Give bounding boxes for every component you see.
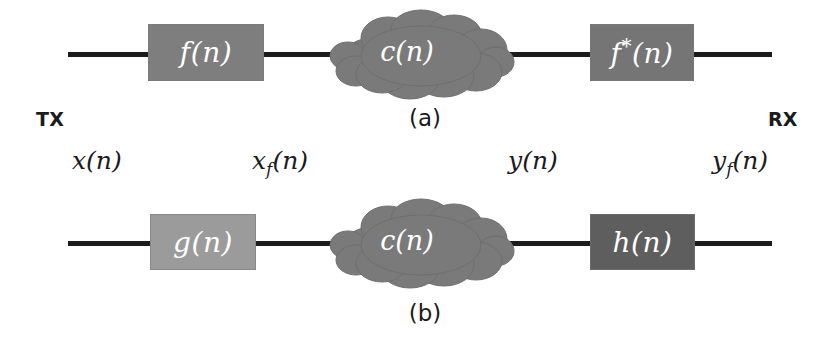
wire-cloud-b-to-h [508,241,592,246]
rx-label: RX [768,108,798,130]
block-g[interactable]: g(n) [150,214,256,270]
block-f-label: f(n) [180,36,232,69]
block-f-conjugate[interactable]: f*(n) [590,24,694,81]
signal-xf-of-n: xf(n) [252,146,308,179]
block-h[interactable]: h(n) [590,214,695,270]
channel-cloud-a-label: c(n) [380,36,434,67]
tx-label: TX [36,108,64,130]
block-h-label: h(n) [613,226,673,259]
channel-cloud-a[interactable]: c(n) [326,8,516,100]
wire-tx-to-g [68,241,152,246]
wire-fconj-to-rx [692,52,772,57]
block-f-conjugate-label: f*(n) [611,34,674,70]
wire-cloud-a-to-fconj [508,52,592,57]
wire-h-to-rx [694,241,772,246]
signal-x-of-n: x(n) [72,146,122,175]
block-f[interactable]: f(n) [148,24,264,81]
signal-y-of-n: y(n) [508,146,558,175]
block-g-label: g(n) [173,226,233,259]
panel-caption-b: (b) [385,300,465,326]
channel-cloud-b[interactable]: c(n) [326,197,516,289]
block-diagram-figure: f(n) c(n) [0,0,825,346]
panel-caption-a: (a) [385,105,465,131]
channel-cloud-b-label: c(n) [380,225,434,256]
signal-yf-of-n: yf(n) [712,146,768,179]
wire-tx-to-f [68,52,150,57]
